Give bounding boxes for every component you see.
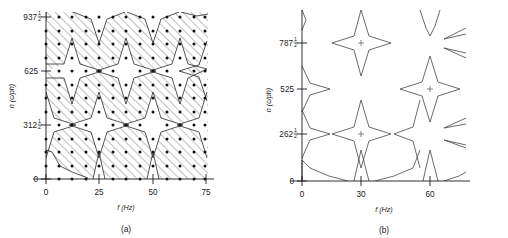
panel-b: 787 1 2 525 262 1 2 0 0 30 60 f (Hz) n (…	[254, 0, 508, 238]
y-tick-frac-den-b-3: 2	[294, 42, 297, 48]
contour-lines-b	[302, 10, 466, 181]
y-axis-label-b: n (c/ph)	[264, 88, 273, 112]
panel-a: 937 1 2 625 312 1 2 0 0 25 50 75 f (Hz) …	[0, 0, 254, 238]
x-tick-label-3: 75	[201, 188, 211, 197]
y-tick-label-0: 0	[33, 175, 38, 184]
x-tick-label-2: 50	[148, 188, 158, 197]
hatched-passband-region	[40, 12, 210, 179]
panel-b-caption: (b)	[379, 225, 389, 235]
y-axis-label-a: n (c/ph)	[7, 84, 16, 108]
y-tick-label-1: 312	[23, 121, 37, 130]
y-tick-labels-a: 937 1 2 625 312 1 2 0	[23, 10, 42, 184]
panel-a-caption: (a)	[121, 224, 131, 234]
y-tick-frac-den-b-1: 2	[294, 133, 297, 139]
panel-b-svg: 787 1 2 525 262 1 2 0 0 30 60 f (Hz) n (…	[254, 0, 508, 238]
x-tick-labels-a: 0 25 50 75	[44, 188, 211, 197]
y-tick-frac-den-1: 2	[38, 124, 41, 130]
x-axis-label-a: f (Hz)	[117, 203, 135, 212]
y-tick-frac-den-3: 2	[38, 16, 41, 22]
x-tick-label-0: 0	[44, 188, 49, 197]
y-tick-label-b-2: 525	[280, 85, 294, 94]
y-tick-label-b-1: 262	[279, 130, 293, 139]
x-tick-labels-b: 0 30 60	[300, 190, 435, 199]
x-tick-label-b-0: 0	[300, 190, 305, 199]
y-tick-label-3: 937	[23, 13, 37, 22]
y-tick-label-2: 625	[24, 67, 38, 76]
x-tick-label-b-1: 30	[356, 190, 366, 199]
figure-container: 937 1 2 625 312 1 2 0 0 25 50 75 f (Hz) …	[0, 0, 508, 238]
x-tick-label-b-2: 60	[425, 190, 435, 199]
y-tick-label-b-0: 0	[289, 177, 294, 186]
x-axis-label-b: f (Hz)	[375, 205, 393, 214]
y-tick-labels-b: 787 1 2 525 262 1 2 0	[279, 36, 298, 186]
panel-a-svg: 937 1 2 625 312 1 2 0 0 25 50 75 f (Hz) …	[0, 0, 254, 238]
y-tick-label-b-3: 787	[279, 39, 293, 48]
x-tick-label-1: 25	[94, 188, 104, 197]
star-centre-plus-markers	[358, 40, 433, 137]
